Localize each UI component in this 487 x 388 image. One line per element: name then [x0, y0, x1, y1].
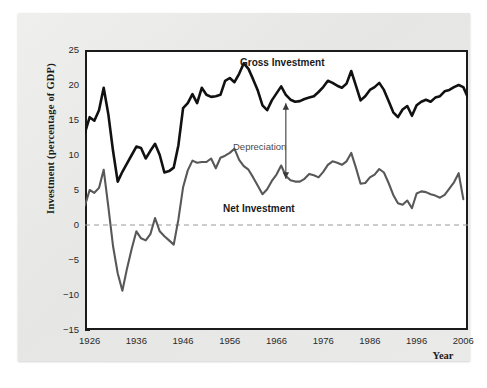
x-axis-label: Year [414, 350, 472, 361]
net-investment-line [85, 149, 463, 291]
x-tick-label: 1946 [160, 335, 206, 346]
x-tick-label: 1986 [347, 335, 393, 346]
x-tick-label: 1926 [67, 335, 113, 346]
x-tick-label: 2006 [440, 335, 486, 346]
chart-plot [85, 50, 468, 330]
x-tick-label: 1956 [207, 335, 253, 346]
y-tick-label: 25 [34, 44, 79, 55]
x-tick-label: 1996 [394, 335, 440, 346]
depreciation-label: Depreciation [233, 141, 286, 152]
gross-investment-line [85, 63, 468, 181]
figure-card: Investment (percentage of GDP) 252015105… [18, 13, 470, 361]
y-tick-label: −15 [34, 324, 79, 335]
y-tick-label: 20 [34, 79, 79, 90]
y-tick-mark [85, 330, 90, 331]
y-tick-label: 0 [34, 219, 79, 230]
net-investment-label: Net Investment [223, 203, 295, 214]
y-tick-label: −10 [34, 289, 79, 300]
y-tick-label: −5 [34, 254, 79, 265]
chart-page: Investment (percentage of GDP) 252015105… [0, 0, 487, 388]
y-tick-label: 10 [34, 149, 79, 160]
x-tick-label: 1976 [300, 335, 346, 346]
gross-investment-label: Gross Investment [240, 57, 324, 68]
y-tick-label: 5 [34, 184, 79, 195]
y-tick-label: 15 [34, 114, 79, 125]
x-tick-label: 1936 [113, 335, 159, 346]
x-tick-label: 1966 [254, 335, 300, 346]
